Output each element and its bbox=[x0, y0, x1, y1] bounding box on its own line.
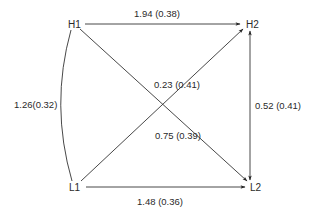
edge-h1-l1-curved bbox=[61, 30, 72, 181]
edge-label-h1-l1: 1.26(0.32) bbox=[14, 99, 57, 110]
edge-label-h2-l2: 0.52 (0.41) bbox=[255, 100, 301, 111]
edge-label-l1-h2: 0.23 (0.41) bbox=[154, 79, 200, 90]
node-l1: L1 bbox=[69, 182, 81, 193]
node-h2: H2 bbox=[246, 19, 259, 30]
node-l2: L2 bbox=[250, 182, 262, 193]
edge-label-h1-l2: 0.75 (0.39) bbox=[155, 130, 201, 141]
path-diagram: H1 H2 L1 L2 1.94 (0.38) 1.48 (0.36) 0.23… bbox=[0, 0, 309, 213]
edge-label-h1-h2: 1.94 (0.38) bbox=[134, 8, 180, 19]
edge-label-l1-l2: 1.48 (0.36) bbox=[137, 196, 183, 207]
node-h1: H1 bbox=[68, 19, 81, 30]
